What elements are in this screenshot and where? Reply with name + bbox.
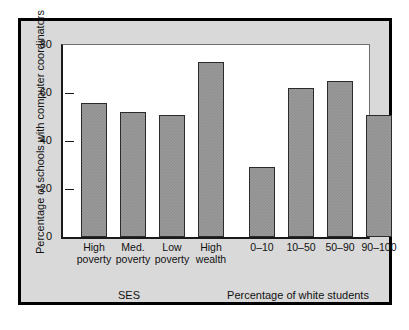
bar-med-poverty (120, 112, 146, 237)
bar-low-poverty (159, 115, 185, 237)
y-tick-label-60: 60 (40, 86, 52, 98)
y-tick-40 (65, 141, 74, 142)
y-tick-label-0: 0 (46, 230, 52, 242)
x-label-white-90-100-text: 90–100 (344, 241, 409, 253)
bar-white-90-100 (366, 115, 392, 237)
y-tick-20 (65, 189, 74, 190)
y-tick-label-80: 80 (40, 38, 52, 50)
bar-white-50-90 (327, 81, 353, 237)
x-label-white-90-100: 90–100 (344, 241, 409, 253)
bar-high-wealth (198, 62, 224, 237)
chart-figure: Percentage of schools with computer coor… (18, 18, 392, 305)
y-axis-title: Percentage of schools with computer coor… (34, 54, 46, 254)
bar-white-0-10 (249, 167, 275, 237)
x-label-high-wealth-line2: wealth (176, 253, 246, 265)
bar-high-poverty (81, 103, 107, 237)
y-tick-60 (65, 93, 74, 94)
plot-area: High poverty Med. poverty Low poverty Hi… (61, 44, 370, 239)
group-title-white-students: Percentage of white students (218, 289, 378, 301)
y-axis-title-container: Percentage of schools with computer coor… (35, 236, 49, 330)
y-tick-label-20: 20 (40, 182, 52, 194)
y-tick-label-40: 40 (40, 134, 52, 146)
group-title-ses: SES (94, 289, 164, 301)
bar-white-10-50 (288, 88, 314, 237)
